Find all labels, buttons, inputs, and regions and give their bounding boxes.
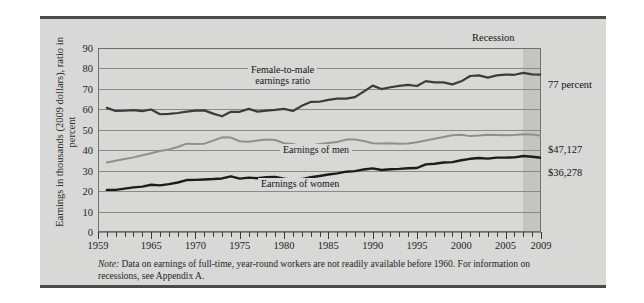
- annotation-ratio: Female-to-male earnings ratio: [248, 64, 317, 86]
- series-line-female-to-male-earnings-ratio: [107, 73, 541, 116]
- x-tick-1997: [435, 232, 436, 237]
- x-tick-2004: [497, 232, 498, 237]
- x-tick-1985: [328, 232, 329, 239]
- y-axis-title: Earnings in thousands (2009 dollars), ra…: [54, 32, 78, 232]
- x-tick-1998: [444, 232, 445, 237]
- x-tick-1999: [452, 232, 453, 237]
- x-tick-1967: [169, 232, 170, 237]
- x-tick-label-1965: 1965: [141, 240, 162, 251]
- end-label-men: $47,127: [548, 144, 582, 155]
- x-tick-label-1959: 1959: [88, 240, 109, 251]
- annotation-ratio-line1: Female-to-male: [251, 64, 314, 75]
- y-tick-label-20: 20: [83, 186, 94, 197]
- x-tick-2001: [470, 232, 471, 237]
- y-tick-label-30: 30: [83, 165, 94, 176]
- y-tick-label-50: 50: [83, 124, 94, 135]
- x-tick-label-1995: 1995: [406, 240, 427, 251]
- x-tick-2005: [506, 232, 507, 239]
- y-tick-label-10: 10: [83, 206, 94, 217]
- end-label-ratio: 77 percent: [548, 79, 592, 90]
- note-prefix: Note:: [98, 259, 119, 269]
- plot-area: 0102030405060708090 Female-to-male earni…: [98, 48, 541, 232]
- x-tick-1970: [195, 232, 196, 239]
- x-tick-1984: [320, 232, 321, 237]
- x-tick-1972: [213, 232, 214, 237]
- y-tick-label-40: 40: [83, 145, 94, 156]
- x-tick-1966: [160, 232, 161, 237]
- x-tick-1979: [275, 232, 276, 237]
- x-tick-1986: [337, 232, 338, 237]
- y-tick-label-60: 60: [83, 104, 94, 115]
- x-tick-1976: [249, 232, 250, 237]
- y-tick-label-80: 80: [83, 63, 94, 74]
- x-tick-label-1990: 1990: [362, 240, 383, 251]
- x-tick-2003: [488, 232, 489, 237]
- x-tick-1978: [266, 232, 267, 237]
- annotation-men: Earnings of men: [280, 144, 352, 155]
- x-tick-1965: [151, 232, 152, 239]
- y-tick-label-70: 70: [83, 83, 94, 94]
- x-tick-2008: [532, 232, 533, 237]
- y-tick-label-90: 90: [83, 43, 94, 54]
- figure-panel: Earnings in thousands (2009 dollars), ra…: [40, 16, 606, 288]
- annotation-ratio-line2: earnings ratio: [255, 75, 310, 86]
- x-tick-2007: [523, 232, 524, 237]
- x-tick-2000: [461, 232, 462, 239]
- x-tick-1981: [293, 232, 294, 237]
- x-tick-1983: [311, 232, 312, 237]
- x-tick-1961: [116, 232, 117, 237]
- figure-note: Note: Data on earnings of full-time, yea…: [98, 259, 568, 282]
- annotation-women: Earnings of women: [258, 178, 342, 189]
- figure-bottom-rule: [40, 285, 606, 288]
- x-tick-1987: [346, 232, 347, 237]
- x-tick-1962: [125, 232, 126, 237]
- x-tick-1988: [355, 232, 356, 237]
- x-tick-1995: [417, 232, 418, 239]
- x-tick-1994: [408, 232, 409, 237]
- x-tick-1991: [382, 232, 383, 237]
- x-tick-1968: [178, 232, 179, 237]
- x-tick-1982: [302, 232, 303, 237]
- x-axis-labels: 1959196519701975198019851990199520002005…: [98, 240, 541, 254]
- x-tick-1971: [204, 232, 205, 237]
- end-label-women: $36,278: [548, 167, 582, 178]
- x-tick-1992: [390, 232, 391, 237]
- x-axis-ticks: [98, 232, 541, 239]
- x-tick-label-1985: 1985: [318, 240, 339, 251]
- x-tick-1989: [364, 232, 365, 237]
- figure-top-rule: [40, 16, 606, 19]
- x-tick-1974: [231, 232, 232, 237]
- x-tick-1975: [240, 232, 241, 239]
- x-tick-2002: [479, 232, 480, 237]
- x-tick-1964: [142, 232, 143, 237]
- x-tick-label-1970: 1970: [185, 240, 206, 251]
- x-tick-1960: [107, 232, 108, 237]
- x-tick-2009: [541, 232, 542, 239]
- x-tick-1963: [133, 232, 134, 237]
- x-tick-label-2000: 2000: [451, 240, 472, 251]
- x-tick-1980: [284, 232, 285, 239]
- series-lines: [98, 48, 541, 232]
- x-tick-label-2009: 2009: [531, 240, 552, 251]
- x-tick-label-1975: 1975: [229, 240, 250, 251]
- x-tick-label-1980: 1980: [274, 240, 295, 251]
- x-tick-1969: [187, 232, 188, 237]
- x-tick-1993: [399, 232, 400, 237]
- x-tick-1973: [222, 232, 223, 237]
- x-tick-2006: [514, 232, 515, 237]
- note-text: Data on earnings of full-time, year-roun…: [98, 259, 530, 281]
- y-tick-label-0: 0: [88, 227, 93, 238]
- x-tick-1977: [257, 232, 258, 237]
- x-tick-1996: [426, 232, 427, 237]
- x-tick-label-2005: 2005: [495, 240, 516, 251]
- x-tick-1959: [98, 232, 99, 239]
- recession-label: Recession: [472, 32, 515, 43]
- x-tick-1990: [373, 232, 374, 239]
